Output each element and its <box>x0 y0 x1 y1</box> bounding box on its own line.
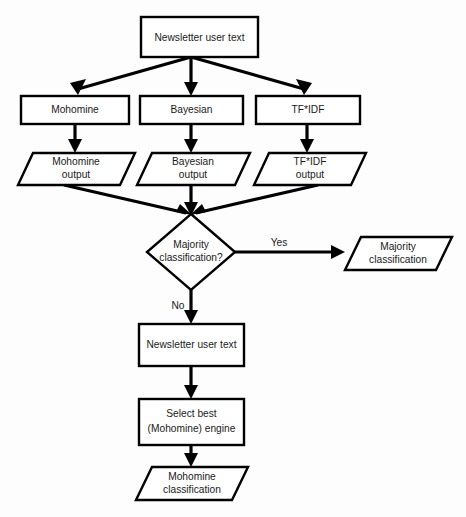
node-decision-majority-label-line1: Majority <box>173 239 210 250</box>
connector-line-to-mohomine <box>78 57 191 89</box>
node-output-tfidf: TF*IDF output <box>254 153 366 185</box>
node-result-mohomine-label-line2: classification <box>163 484 221 495</box>
node-engine-tfidf-label: TF*IDF <box>292 104 325 115</box>
arrow-head-yes <box>331 245 345 259</box>
connector-line-mohomine-to-decision <box>64 185 186 213</box>
node-select-engine-label-line2: (Mohomine) engine <box>148 423 236 434</box>
node-engine-tfidf: TF*IDF <box>256 96 360 124</box>
connector-select-to-result <box>184 445 198 467</box>
connector-engines-to-outputs <box>68 124 314 153</box>
node-input-second-label: Newsletter user text <box>146 339 236 350</box>
connector-input-to-engines <box>70 57 312 96</box>
edge-label-yes: Yes <box>271 237 288 248</box>
node-output-mohomine-label-line2: output <box>62 169 90 180</box>
node-select-engine-label-line1: Select best <box>166 408 217 419</box>
node-input-second: Newsletter user text <box>139 324 244 366</box>
arrow-head-tfidf-output <box>300 139 314 153</box>
connector-line-tfidf-to-decision <box>196 185 318 213</box>
arrow-head-mohomine-output <box>68 139 82 153</box>
node-engine-bayesian-label: Bayesian <box>171 104 213 115</box>
node-engine-mohomine-label: Mohomine <box>51 104 99 115</box>
node-decision-majority-label-line2: classification? <box>159 252 223 263</box>
connector-no-branch <box>184 290 198 324</box>
node-output-bayesian: Bayesian output <box>137 153 250 185</box>
arrow-head-no <box>184 310 198 324</box>
node-output-tfidf-label-line2: output <box>296 169 324 180</box>
node-result-majority-label-line2: classification <box>369 254 427 265</box>
node-output-bayesian-label-line2: output <box>179 169 207 180</box>
node-result-mohomine-label-line1: Mohomine <box>168 471 216 482</box>
connector-yes-branch <box>235 245 345 259</box>
arrow-head-select-result <box>184 453 198 467</box>
node-output-mohomine: Mohomine output <box>18 153 135 185</box>
connector-line-to-tfidf <box>191 57 304 89</box>
connector-input-to-select <box>184 366 198 399</box>
node-result-majority-label-line1: Majority <box>380 241 417 252</box>
connector-outputs-to-decision <box>64 185 318 216</box>
arrow-head-to-bayesian <box>184 82 198 96</box>
node-input-top: Newsletter user text <box>141 17 258 57</box>
flowchart-canvas: Newsletter user text Mohomine Bayesian T… <box>0 0 466 517</box>
flowchart-diagram: Newsletter user text Mohomine Bayesian T… <box>0 0 466 517</box>
arrow-head-input-select <box>184 385 198 399</box>
node-result-mohomine: Mohomine classification <box>136 467 248 500</box>
node-engine-bayesian: Bayesian <box>140 96 243 124</box>
node-output-tfidf-label-line1: TF*IDF <box>294 156 327 167</box>
node-engine-mohomine: Mohomine <box>21 96 129 124</box>
node-select-engine: Select best (Mohomine) engine <box>139 399 244 445</box>
node-decision-majority: Majority classification? <box>147 214 235 290</box>
arrow-head-bayesian-output <box>184 139 198 153</box>
node-result-majority: Majority classification <box>345 237 452 270</box>
node-input-top-label: Newsletter user text <box>154 32 244 43</box>
node-output-mohomine-label-line1: Mohomine <box>52 156 100 167</box>
node-output-bayesian-label-line1: Bayesian <box>172 156 214 167</box>
edge-label-no: No <box>171 300 184 311</box>
